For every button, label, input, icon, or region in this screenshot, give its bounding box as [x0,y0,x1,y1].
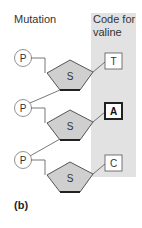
nucleotide-1: P S T [15,50,123,91]
base-label: T [110,56,116,67]
phosphate-label: P [20,155,27,166]
base-label: A [110,106,117,117]
dna-strand-diagram: P S T P S A P S C [0,0,142,228]
phosphate-label: P [20,103,27,114]
nucleotide-3: P S C [15,152,123,193]
sugar-label: S [67,121,74,132]
sugar-label: S [67,71,74,82]
nucleotide-2: P S A [15,100,123,141]
base-label: C [110,158,117,169]
sugar-label: S [67,173,74,184]
phosphate-label: P [20,53,27,64]
